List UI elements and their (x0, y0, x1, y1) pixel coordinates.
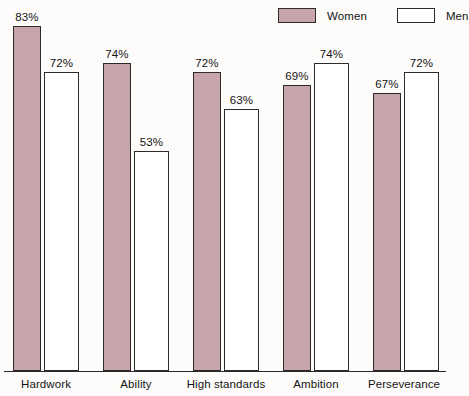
bar-slot-women: 67% (373, 93, 401, 371)
bar-value-label: 72% (195, 57, 218, 69)
bar-men (314, 63, 349, 371)
bar-women (103, 63, 131, 371)
bar-group-high-standards: 72% 63% (193, 72, 259, 371)
bar-men (134, 151, 169, 371)
x-axis-label-high-standards: High standards (187, 378, 266, 390)
bar-slot-men: 72% (404, 72, 439, 371)
bar-men (224, 109, 259, 371)
bar-slot-men: 72% (44, 72, 79, 371)
bar-women (193, 72, 221, 371)
bar-value-label: 74% (320, 48, 343, 60)
bar-value-label: 74% (105, 48, 128, 60)
x-axis-label-hardwork: Hardwork (21, 378, 71, 390)
bar-women (373, 93, 401, 371)
x-axis-label-ability: Ability (120, 378, 151, 390)
bar-slot-women: 83% (13, 26, 41, 371)
bar-slot-men: 63% (224, 109, 259, 371)
bar-value-label: 83% (15, 11, 38, 23)
bar-slot-women: 72% (193, 72, 221, 371)
bar-value-label: 72% (410, 57, 433, 69)
bar-men (404, 72, 439, 371)
bar-slot-women: 69% (283, 85, 311, 371)
bar-men (44, 72, 79, 371)
x-axis-label-perseverance: Perseverance (368, 378, 440, 390)
bar-group-ability: 74% 53% (103, 63, 169, 371)
x-axis-labels: Hardwork Ability High standards Ambition… (0, 374, 450, 396)
bar-slot-men: 74% (314, 63, 349, 371)
bar-women (13, 26, 41, 371)
bar-value-label: 72% (50, 57, 73, 69)
bar-group-ambition: 69% 74% (283, 63, 349, 371)
bar-slot-women: 74% (103, 63, 131, 371)
bar-value-label: 63% (230, 94, 253, 106)
x-axis-label-ambition: Ambition (293, 378, 339, 390)
bar-group-perseverance: 67% 72% (373, 72, 439, 371)
bar-value-label: 53% (140, 136, 163, 148)
bar-women (283, 85, 311, 371)
bar-value-label: 67% (375, 78, 398, 90)
plot-area: 83% 72% 74% 53% 72% (0, 0, 450, 372)
bar-value-label: 69% (285, 70, 308, 82)
bar-group-hardwork: 83% 72% (13, 26, 79, 371)
bar-slot-men: 53% (134, 151, 169, 371)
x-axis-line (4, 371, 446, 372)
